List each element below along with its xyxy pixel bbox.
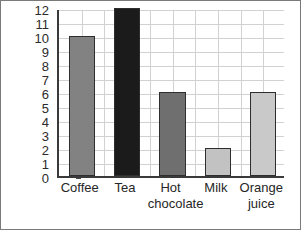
y-tick-label-11: 11 <box>36 18 50 31</box>
x-tick-label-hot-chocolate: Hot chocolate <box>148 180 193 213</box>
bars-group <box>59 10 284 176</box>
y-tick-label-3: 3 <box>42 130 49 143</box>
bar-milk <box>205 148 231 176</box>
x-tick-label-coffee: Coffee <box>57 180 102 196</box>
bar-orange-juice <box>250 92 276 176</box>
y-axis-tick-labels: 0123456789101112 <box>25 4 51 186</box>
y-tick-label-12: 12 <box>35 4 49 17</box>
y-tick-label-7: 7 <box>42 74 49 87</box>
bar-hot-chocolate <box>159 92 185 176</box>
y-tick-label-5: 5 <box>42 102 49 115</box>
x-tick-label-orange-juice: Orange juice <box>239 180 284 213</box>
y-tick-label-1: 1 <box>42 158 49 171</box>
bar-chart-figure: Frequency 0123456789101112 CoffeeTeaHot … <box>0 0 301 230</box>
bar-coffee <box>69 36 95 176</box>
x-axis-tick-labels: CoffeeTeaHot chocolateMilkOrange juice <box>57 180 286 228</box>
y-tick-label-2: 2 <box>42 144 49 157</box>
y-tick-label-8: 8 <box>42 60 49 73</box>
y-tick-mark <box>76 178 81 179</box>
x-tick-label-milk: Milk <box>193 180 238 196</box>
y-tick-label-4: 4 <box>42 116 49 129</box>
plot-area <box>57 10 284 178</box>
x-tick-label-tea: Tea <box>102 180 147 196</box>
y-tick-label-10: 10 <box>35 32 49 45</box>
y-tick-label-9: 9 <box>42 46 49 59</box>
bar-tea <box>114 8 140 176</box>
y-tick-label-6: 6 <box>42 88 49 101</box>
y-tick-label-0: 0 <box>42 172 49 185</box>
